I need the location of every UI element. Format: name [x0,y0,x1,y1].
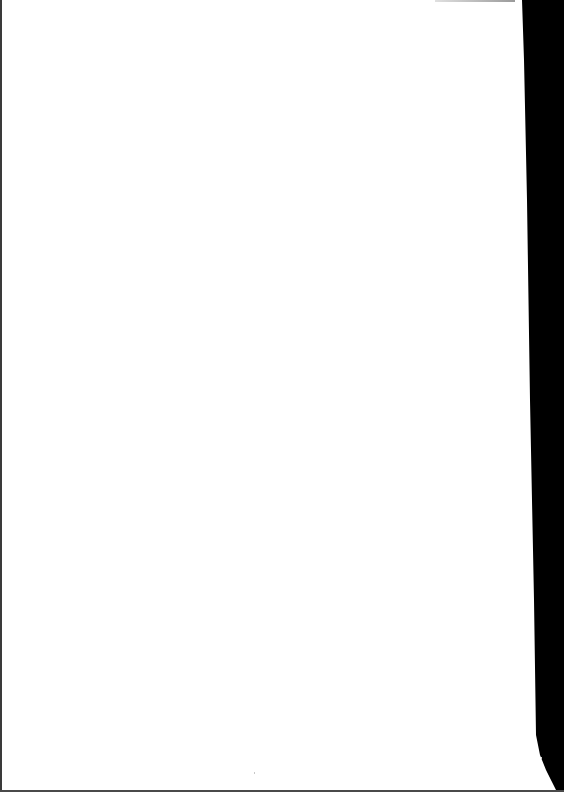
scan-speck [254,772,255,774]
paper-shape [0,0,564,792]
left-scan-edge [0,0,2,792]
top-scan-artifact [435,0,515,2]
blank-paper-sheet [0,0,564,792]
scanned-document [0,0,564,792]
scan-speck [541,757,542,759]
